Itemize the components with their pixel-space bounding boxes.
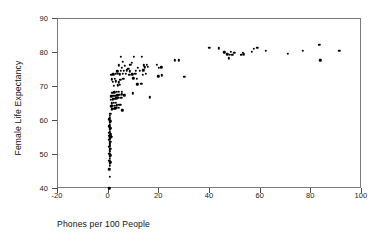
data-point xyxy=(228,57,230,59)
data-point xyxy=(108,168,110,170)
data-point xyxy=(183,76,185,78)
data-point xyxy=(223,51,225,53)
data-point xyxy=(140,83,142,85)
data-point xyxy=(142,69,144,71)
data-point xyxy=(231,53,233,55)
data-point xyxy=(118,107,120,109)
data-point xyxy=(120,70,122,72)
x-tick-label: 100 xyxy=(346,191,376,200)
data-point xyxy=(141,74,143,76)
data-point xyxy=(149,96,151,98)
x-tick-label: -20 xyxy=(42,191,72,200)
data-point xyxy=(177,59,179,61)
data-point xyxy=(121,109,123,111)
data-point xyxy=(252,47,254,49)
data-point xyxy=(125,73,127,75)
data-point xyxy=(287,52,289,54)
data-point xyxy=(123,94,125,96)
data-point xyxy=(118,91,120,93)
data-point xyxy=(338,50,340,52)
data-point xyxy=(129,70,131,72)
y-tick-label: 90 xyxy=(24,14,48,23)
data-point xyxy=(160,66,162,68)
y-tick-label: 60 xyxy=(24,116,48,125)
data-point xyxy=(138,69,140,71)
data-point xyxy=(243,53,245,55)
data-point xyxy=(118,64,120,66)
plot-area xyxy=(57,18,361,188)
y-tick-label: 80 xyxy=(24,48,48,57)
data-point xyxy=(132,92,134,94)
y-axis-title: Female Life Expectancy xyxy=(13,43,23,173)
data-point xyxy=(113,84,115,86)
data-point xyxy=(123,69,125,71)
data-point xyxy=(250,50,252,52)
data-point xyxy=(119,103,121,105)
data-point xyxy=(119,84,121,86)
data-point xyxy=(131,73,133,75)
data-point xyxy=(132,77,134,79)
data-point xyxy=(174,59,176,61)
data-point xyxy=(146,66,148,68)
data-point xyxy=(318,44,320,46)
data-point xyxy=(134,73,136,75)
data-point xyxy=(117,97,119,99)
data-point xyxy=(302,49,304,51)
data-point xyxy=(135,78,137,80)
data-point xyxy=(122,73,124,75)
data-point xyxy=(256,46,258,48)
data-point xyxy=(108,176,110,178)
data-points-layer xyxy=(58,19,360,187)
data-point xyxy=(143,66,145,68)
data-point xyxy=(128,74,130,76)
data-point xyxy=(208,47,210,49)
x-tick-label: 60 xyxy=(245,191,275,200)
data-point xyxy=(133,56,135,58)
scatter-plot-figure: Female Life Expectancy 405060708090 -200… xyxy=(0,0,384,242)
data-point xyxy=(217,47,219,49)
data-point xyxy=(129,64,131,66)
x-tick-label: 80 xyxy=(295,191,325,200)
data-point xyxy=(122,61,124,63)
data-point xyxy=(124,65,126,67)
data-point xyxy=(122,77,124,79)
data-point xyxy=(112,80,114,82)
data-point xyxy=(141,56,143,58)
data-point xyxy=(135,70,137,72)
data-point xyxy=(319,59,321,61)
data-point xyxy=(120,96,122,98)
data-point xyxy=(233,51,235,53)
y-tick-label: 70 xyxy=(24,82,48,91)
x-tick-label: 0 xyxy=(93,191,123,200)
x-tick-label: 40 xyxy=(194,191,224,200)
data-point xyxy=(126,69,128,71)
data-point xyxy=(109,164,111,166)
data-point xyxy=(161,74,163,76)
data-point xyxy=(119,78,121,80)
data-point xyxy=(120,56,122,58)
data-point xyxy=(136,83,138,85)
data-point xyxy=(265,50,267,52)
x-axis-title: Phones per 100 People xyxy=(57,219,150,229)
data-point xyxy=(144,73,146,75)
x-tick-label: 20 xyxy=(143,191,173,200)
data-point xyxy=(157,75,159,77)
y-tick-label: 50 xyxy=(24,150,48,159)
